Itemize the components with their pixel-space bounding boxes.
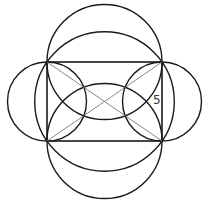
side-length-label: 5 [153, 93, 161, 107]
geometry-diagram: 5 [0, 0, 205, 205]
diagram-canvas [0, 0, 205, 205]
